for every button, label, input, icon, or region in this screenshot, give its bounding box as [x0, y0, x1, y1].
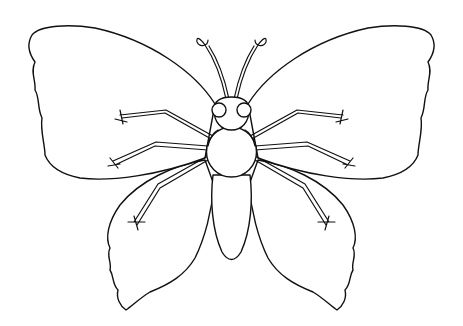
abdomen	[212, 175, 252, 260]
upper-left-wing	[29, 26, 215, 179]
left-eye	[212, 103, 226, 117]
antennae	[197, 38, 266, 99]
thorax	[207, 127, 257, 177]
right-eye	[237, 103, 251, 117]
upper-right-wing	[248, 26, 434, 179]
butterfly-drawing	[0, 0, 463, 326]
butterfly-illustration: butterfly line-art coloring page	[0, 0, 463, 326]
